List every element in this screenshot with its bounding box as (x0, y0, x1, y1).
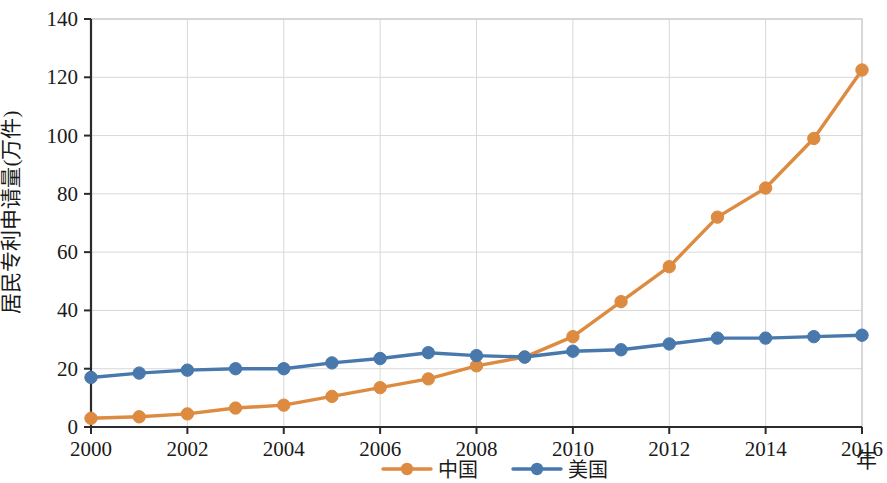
legend-item-1: 中国 (383, 459, 478, 481)
legend-marker (401, 463, 413, 475)
x-tick-label: 2006 (359, 437, 401, 461)
data-point (856, 64, 868, 76)
x-tick-label: 2008 (456, 437, 498, 461)
data-point (229, 402, 241, 414)
x-tick-label: 2002 (166, 437, 208, 461)
data-point (278, 363, 290, 375)
data-point (759, 182, 771, 194)
data-point (326, 390, 338, 402)
data-point (615, 344, 627, 356)
data-point (133, 367, 145, 379)
data-point (856, 329, 868, 341)
legend-label: 中国 (438, 459, 478, 481)
x-axis-title: 年 (856, 448, 877, 472)
x-tick-label: 2000 (70, 437, 112, 461)
y-axis-tick-labels: 020406080100120140 (47, 7, 79, 439)
data-point (567, 345, 579, 357)
patent-applications-line-chart: 020406080100120140 200020022004200620082… (0, 0, 887, 483)
legend-label: 美国 (568, 459, 608, 481)
data-point (711, 211, 723, 223)
data-point (615, 295, 627, 307)
x-tick-label: 2014 (745, 437, 788, 461)
data-point (85, 412, 97, 424)
y-tick-label: 100 (47, 124, 79, 148)
x-tick-label: 2010 (552, 437, 594, 461)
data-point (181, 364, 193, 376)
data-point (518, 351, 530, 363)
y-tick-label: 120 (47, 65, 79, 89)
data-point (663, 338, 675, 350)
data-point (85, 371, 97, 383)
data-point (663, 261, 675, 273)
data-point (808, 132, 820, 144)
data-point (711, 332, 723, 344)
data-point (567, 330, 579, 342)
chart-canvas: 020406080100120140 200020022004200620082… (0, 0, 887, 483)
data-point (808, 330, 820, 342)
y-axis-title: 居民专利申请量(万件) (0, 111, 23, 314)
legend-item-2: 美国 (513, 459, 608, 481)
data-point (422, 373, 434, 385)
data-point (759, 332, 771, 344)
data-point (181, 408, 193, 420)
data-point (470, 349, 482, 361)
data-point (422, 346, 434, 358)
data-point (374, 381, 386, 393)
y-tick-label: 140 (47, 7, 79, 31)
chart-legend: 中国美国 (383, 459, 608, 481)
x-tick-label: 2004 (263, 437, 306, 461)
data-point (133, 411, 145, 423)
data-point (326, 357, 338, 369)
y-tick-label: 20 (57, 357, 78, 381)
y-tick-label: 40 (57, 298, 78, 322)
data-point (278, 399, 290, 411)
y-tick-label: 80 (57, 182, 78, 206)
legend-marker (531, 463, 543, 475)
x-axis-tick-labels: 200020022004200620082010201220142016 (70, 437, 883, 461)
x-tick-label: 2012 (648, 437, 690, 461)
data-point (374, 352, 386, 364)
y-tick-label: 0 (68, 415, 79, 439)
y-tick-label: 60 (57, 240, 78, 264)
data-point (229, 363, 241, 375)
